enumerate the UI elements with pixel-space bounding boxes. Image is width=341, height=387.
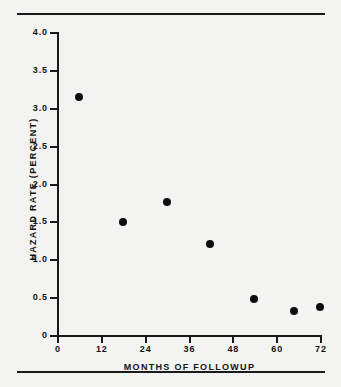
x-tick-label: 36: [175, 345, 205, 354]
x-tick-label: 72: [306, 345, 336, 354]
y-tick: [50, 259, 58, 261]
y-tick: [50, 32, 58, 34]
y-tick: [50, 108, 58, 110]
x-axis-title: MONTHS OF FOLLOWUP: [57, 362, 322, 372]
data-point: [316, 303, 324, 311]
y-tick-label: 0.5: [8, 293, 48, 302]
y-tick-label: 0: [8, 331, 48, 340]
y-axis-title: HAZARD RATE (PERCENT): [28, 89, 38, 289]
x-tick-label: 12: [87, 345, 117, 354]
y-tick: [50, 297, 58, 299]
scatter-plot: 00.51.01.52.02.53.03.54.0 0122436486072 …: [0, 0, 341, 387]
y-tick: [50, 70, 58, 72]
y-tick: [50, 184, 58, 186]
data-point: [119, 218, 127, 226]
x-tick-label: 60: [262, 345, 292, 354]
y-tick-label: 3.5: [8, 66, 48, 75]
x-tick: [145, 336, 147, 343]
x-tick-label: 24: [131, 345, 161, 354]
x-tick: [57, 336, 59, 343]
data-point: [206, 240, 214, 248]
data-point: [75, 93, 83, 101]
x-tick-label: 0: [43, 345, 73, 354]
data-point: [290, 307, 298, 315]
data-point: [250, 295, 258, 303]
y-tick: [50, 221, 58, 223]
x-tick: [101, 336, 103, 343]
data-point: [163, 198, 171, 206]
x-tick: [232, 336, 234, 343]
x-tick: [189, 336, 191, 343]
x-tick-label: 48: [218, 345, 248, 354]
x-tick: [276, 336, 278, 343]
y-tick-label: 4.0: [8, 28, 48, 37]
x-tick: [320, 336, 322, 343]
figure-panel: 00.51.01.52.02.53.03.54.0 0122436486072 …: [0, 0, 341, 387]
y-tick: [50, 146, 58, 148]
